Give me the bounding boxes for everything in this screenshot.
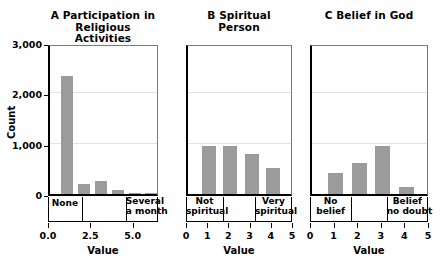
category-label-a-1: Severala month	[126, 197, 158, 216]
category-label-c-0: Nobelief	[310, 197, 351, 216]
ytick-mark-3000	[44, 45, 48, 46]
ytick-mark-2000	[44, 95, 48, 96]
bar-b-1	[202, 146, 216, 194]
panel-a-category-row-baseline	[48, 221, 158, 222]
bar-c-1	[328, 173, 343, 194]
gridline-y-1000	[188, 143, 291, 144]
panel-a-category-row: NoneSeverala month	[48, 197, 158, 222]
ytick-mark-1000	[44, 146, 48, 147]
panel-a-title-line1: A Participation in	[48, 10, 158, 22]
bar-b-3	[245, 154, 259, 194]
ytick-label-0: 0	[2, 190, 42, 201]
panel-b-category-row-baseline	[186, 221, 292, 222]
bar-a-6	[145, 193, 157, 194]
bar-b-2	[223, 146, 237, 194]
gridline-y-2000	[188, 92, 291, 93]
bar-a-5	[129, 193, 141, 194]
category-label-b-1: Veryspiritual	[255, 197, 292, 216]
category-label-line2: spiritual	[186, 207, 223, 217]
panel-a-x-axis-label: Value	[48, 245, 158, 256]
bar-c-3	[375, 146, 390, 194]
xtick-mark-b-4	[271, 223, 272, 228]
category-divider-a-0	[82, 197, 83, 222]
panel-c-x-axis-label: Value	[310, 245, 428, 256]
xtick-mark-a-0	[48, 223, 49, 228]
xtick-label-a-0: 0.0	[28, 230, 68, 241]
bar-c-4	[399, 187, 414, 194]
xtick-mark-c-4	[404, 223, 405, 228]
xtick-mark-b-3	[250, 223, 251, 228]
category-label-b-0: Notspiritual	[186, 197, 223, 216]
bar-a-3	[95, 181, 107, 194]
ytick-label-1000: 1,000	[2, 140, 42, 151]
panel-a-title: A Participation inReligious Activities	[48, 10, 158, 45]
ytick-label-2000: 2,000	[2, 89, 42, 100]
xtick-mark-c-3	[381, 223, 382, 228]
category-label-c-1: Beliefno doubt	[387, 197, 428, 216]
xtick-mark-a-2	[133, 223, 134, 228]
panel-b-category-row: NotspiritualVeryspiritual	[186, 197, 292, 222]
panel-c-title-line1: C Belief in God	[310, 10, 428, 22]
xtick-mark-b-2	[228, 223, 229, 228]
panel-c-plot-area	[310, 45, 428, 196]
panel-b-title-line1: B Spiritual Person	[186, 10, 292, 33]
xtick-mark-b-0	[186, 223, 187, 228]
bar-a-1	[61, 76, 73, 194]
bar-a-4	[112, 190, 124, 194]
category-label-line2: belief	[310, 207, 351, 217]
xtick-mark-c-5	[428, 223, 429, 228]
y-axis-label: Count	[6, 105, 17, 138]
xtick-label-a-1: 2.5	[70, 230, 110, 241]
panel-c-title: C Belief in God	[310, 10, 428, 22]
gridline-y-1000	[312, 143, 427, 144]
bar-b-4	[266, 168, 280, 194]
xtick-label-c-5: 5	[408, 230, 440, 241]
ytick-label-3000: 3,000	[2, 39, 42, 50]
panel-c-category-row-baseline	[310, 221, 428, 222]
category-label-line2: no doubt	[387, 207, 428, 217]
panel-c-category-row: NobeliefBeliefno doubt	[310, 197, 428, 222]
category-label-line1: None	[48, 199, 82, 209]
panel-b-title: B Spiritual Person	[186, 10, 292, 33]
bar-c-2	[352, 163, 367, 194]
bar-a-2	[78, 184, 90, 194]
gridline-y-2000	[312, 92, 427, 93]
panel-b-x-axis-label: Value	[186, 245, 292, 256]
panel-a-plot-area	[48, 45, 158, 196]
xtick-mark-c-1	[334, 223, 335, 228]
category-label-a-0: None	[48, 199, 82, 209]
panel-b: B Spiritual PersonNotspiritualVeryspirit…	[186, 0, 292, 268]
xtick-mark-c-2	[357, 223, 358, 228]
xtick-mark-b-1	[207, 223, 208, 228]
xtick-mark-b-5	[292, 223, 293, 228]
panel-c: C Belief in GodNobeliefBeliefno doubt012…	[310, 0, 428, 268]
panel-a: A Participation inReligious Activities01…	[48, 0, 158, 268]
category-label-line2: spiritual	[255, 207, 292, 217]
xtick-mark-a-1	[90, 223, 91, 228]
category-divider-c-0	[351, 197, 352, 222]
panel-b-plot-area	[186, 45, 292, 196]
category-label-line2: a month	[126, 207, 158, 217]
xtick-mark-c-0	[310, 223, 311, 228]
panel-a-title-line2: Religious Activities	[48, 22, 158, 45]
xtick-label-a-2: 5.0	[113, 230, 153, 241]
figure-canvas: A Participation inReligious Activities01…	[0, 0, 440, 268]
